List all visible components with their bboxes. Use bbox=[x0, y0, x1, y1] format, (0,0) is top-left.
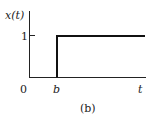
origin-label: 0 bbox=[20, 83, 27, 96]
figure-caption: (b) bbox=[80, 102, 96, 115]
step-function-diagram: x(t) 1 0 b t (b) bbox=[0, 0, 150, 118]
x-tick-label-b: b bbox=[53, 83, 60, 96]
y-tick-label-1: 1 bbox=[21, 30, 28, 43]
x-axis-label: t bbox=[138, 83, 143, 96]
step-signal-line bbox=[57, 36, 145, 78]
y-axis-label: x(t) bbox=[5, 9, 24, 22]
